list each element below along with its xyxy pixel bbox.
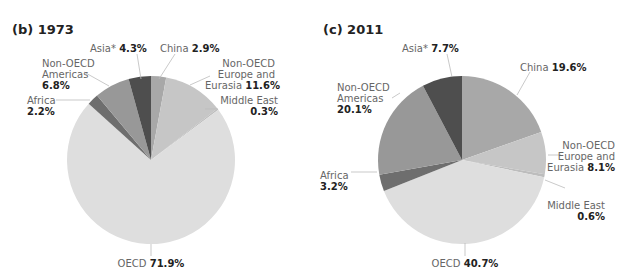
label-oecd-2011: OECD 40.7% xyxy=(425,258,505,269)
label-asia-1973: Asia* 4.3% xyxy=(90,43,147,54)
label-africa-1973: Africa2.2% xyxy=(27,95,56,117)
label-non-oecd-americas-2011: Non-OECDAmericas20.1% xyxy=(337,82,390,115)
label-non-oecd-europe-eurasia-2011: Non-OECDEurope andEurasia 8.1% xyxy=(540,140,615,173)
label-africa-2011: Africa3.2% xyxy=(320,170,349,192)
label-china-2011: China 19.6% xyxy=(520,62,586,73)
label-middle-east-2011: Middle East0.6% xyxy=(535,200,605,222)
label-non-oecd-europe-eurasia-1973: Non-OECDEurope andEurasia 11.6% xyxy=(205,58,275,91)
pie-2011 xyxy=(378,76,546,244)
label-oecd-1973: OECD 71.9% xyxy=(111,258,191,269)
label-asia-2011: Asia* 7.7% xyxy=(402,43,459,54)
label-non-oecd-americas-1973: Non-OECDAmericas6.8% xyxy=(42,58,95,91)
label-china-1973: China 2.9% xyxy=(160,43,220,54)
label-middle-east-1973: Middle East0.3% xyxy=(208,95,278,117)
